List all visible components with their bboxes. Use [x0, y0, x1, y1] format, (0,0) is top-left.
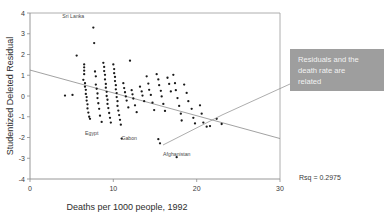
scatter-point: [221, 123, 223, 125]
scatter-point: [101, 121, 103, 123]
scatter-point: [118, 114, 120, 116]
scatter-point: [99, 115, 101, 117]
annotation-afghanistan: Afghanistan: [163, 151, 191, 157]
scatter-point: [201, 112, 203, 114]
annotation-egypt: Egypt: [85, 130, 99, 136]
scatter-point: [156, 73, 158, 75]
scatter-point: [181, 119, 183, 121]
scatter-point: [83, 66, 85, 68]
scatter-point: [148, 89, 150, 91]
scatter-point: [143, 100, 145, 102]
scatter-point: [116, 105, 118, 107]
scatter-point: [127, 106, 129, 108]
scatter-point: [88, 116, 90, 118]
scatter-point: [131, 89, 133, 91]
scatter-point: [174, 82, 176, 84]
scatter-point: [126, 99, 128, 101]
scatter-point: [123, 87, 125, 89]
scatter-point: [84, 82, 86, 84]
scatter-point: [141, 90, 143, 92]
scatter-point: [119, 119, 121, 121]
scatter-point: [95, 83, 97, 85]
rsq-label: Rsq = 0.2975: [299, 174, 341, 182]
scatter-point: [157, 78, 159, 80]
scatter-point: [84, 86, 86, 88]
scatter-point: [168, 83, 170, 85]
scatter-point: [85, 93, 87, 95]
y-tick-label-2: 2: [21, 51, 25, 58]
scatter-point: [107, 107, 109, 109]
x-tick-label-10: 10: [109, 185, 117, 192]
scatter-point: [113, 72, 115, 74]
scatter-point: [105, 87, 107, 89]
y-tick-labels: 4 3 2 1 0 -1 -2 -3 -4: [19, 10, 25, 183]
scatter-point: [159, 142, 161, 144]
scatter-point: [192, 117, 194, 119]
chart-canvas: 4 3 2 1 0 -1 -2 -3 -4 0 10 20 30 Student…: [0, 0, 392, 216]
scatter-point: [86, 107, 88, 109]
scatter-point: [104, 74, 106, 76]
scatter-point: [113, 68, 115, 70]
scatter-point: [95, 75, 97, 77]
scatter-point: [151, 101, 153, 103]
scatter-point: [170, 90, 172, 92]
scatter-point: [131, 93, 133, 95]
scatter-point: [166, 77, 168, 79]
scatter-point: [102, 62, 104, 64]
scatter-point: [124, 91, 126, 93]
scatter-point: [104, 78, 106, 80]
annotation-sri-lanka: Sri Lanka: [62, 13, 84, 19]
scatter-point: [103, 70, 105, 72]
scatter-point: [186, 92, 188, 94]
scatter-point: [187, 100, 189, 102]
scatter-point: [116, 100, 118, 102]
x-axis: [30, 179, 280, 182]
scatter-point: [209, 125, 211, 127]
scatter-point: [109, 117, 111, 119]
scatter-point: [106, 99, 108, 101]
scatter-point: [136, 111, 138, 113]
scatter-point: [162, 103, 164, 105]
scatter-point: [116, 96, 118, 98]
scatter-point: [96, 88, 98, 90]
scatter-point: [172, 74, 174, 76]
scatter-point: [183, 83, 185, 85]
scatter-point: [139, 86, 141, 88]
regression-fit-line: [30, 70, 280, 138]
y-tick-label-4: 4: [21, 10, 25, 17]
scatter-point: [108, 112, 110, 114]
scatter-point: [147, 82, 149, 84]
scatter-points-group: [64, 26, 223, 158]
scatter-point: [157, 138, 159, 140]
scatter-point: [83, 70, 85, 72]
scatter-point: [150, 94, 152, 96]
y-tick-label-neg3: -3: [19, 155, 25, 162]
y-axis: [27, 13, 30, 179]
x-tick-label-20: 20: [193, 185, 201, 192]
scatter-point: [112, 63, 114, 65]
scatter-point: [92, 26, 94, 28]
scatter-point: [86, 96, 88, 98]
scatter-point: [71, 94, 73, 96]
scatter-point: [199, 104, 201, 106]
callout-text-line-3: related: [298, 77, 321, 86]
scatter-point: [89, 118, 91, 120]
scatter-point: [115, 88, 117, 90]
scatter-point: [120, 123, 122, 125]
scatter-point: [117, 109, 119, 111]
scatter-point: [110, 121, 112, 123]
y-tick-label-neg4: -4: [19, 176, 25, 183]
y-tick-label-1: 1: [21, 72, 25, 79]
plot-frame: [30, 13, 280, 179]
x-axis-title: Deaths per 1000 people, 1992: [66, 202, 187, 212]
scatter-point: [76, 54, 78, 56]
scatter-point: [132, 97, 134, 99]
scatter-point: [106, 103, 108, 105]
scatter-point: [194, 122, 196, 124]
scatter-point: [83, 63, 85, 65]
callout-text-line-2: death rate are: [298, 66, 345, 75]
scatter-point: [98, 108, 100, 110]
scatter-point: [96, 92, 98, 94]
scatter-point: [175, 89, 177, 91]
scatter-point: [114, 80, 116, 82]
